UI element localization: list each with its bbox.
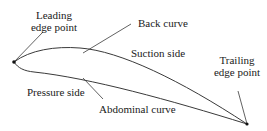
leading-edge-label-line1: Leading <box>28 10 80 21</box>
leading-edge-label-line2: edge point <box>28 22 80 33</box>
pressure-side-label: Pressure side <box>27 87 85 98</box>
trailing-edge-label: Trailing edge point <box>208 55 266 78</box>
leading-edge-leader <box>14 32 43 62</box>
back-curve-label: Back curve <box>138 18 188 29</box>
leading-edge-point <box>12 60 16 64</box>
airfoil-diagram: Leading edge point Back curve Suction si… <box>0 0 267 131</box>
trailing-edge-label-line1: Trailing <box>208 55 266 66</box>
abdominal-curve-leader <box>83 78 103 99</box>
suction-side-label: Suction side <box>131 48 185 59</box>
trailing-edge-point <box>245 122 248 125</box>
back-curve-leader <box>83 24 131 53</box>
abdominal-curve-label: Abdominal curve <box>99 104 176 115</box>
leading-edge-label: Leading edge point <box>28 10 80 33</box>
trailing-edge-label-line2: edge point <box>208 67 266 78</box>
